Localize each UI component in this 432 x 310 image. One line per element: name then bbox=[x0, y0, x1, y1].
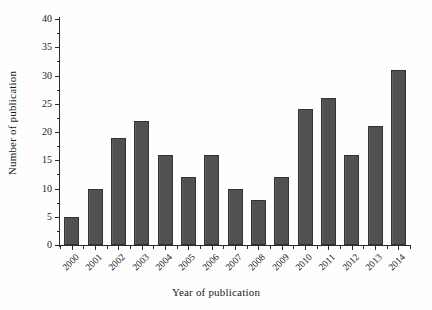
bar bbox=[111, 138, 126, 245]
y-axis-title: Number of publication bbox=[2, 0, 22, 246]
y-axis-tick-label: 10 bbox=[30, 184, 52, 194]
bar bbox=[344, 155, 359, 245]
bar bbox=[251, 200, 266, 245]
y-axis-tick-label: 30 bbox=[30, 71, 52, 81]
x-axis-tick-label: 2010 bbox=[291, 252, 314, 275]
x-axis-tick bbox=[375, 246, 376, 250]
y-axis-tick-label: 20 bbox=[30, 127, 52, 137]
x-axis-minor-tick bbox=[363, 246, 364, 249]
y-axis-tick-label: 5 bbox=[30, 212, 52, 222]
y-axis-minor-tick bbox=[57, 90, 60, 91]
y-axis-tick-label: 15 bbox=[30, 155, 52, 165]
y-axis-tick bbox=[55, 47, 60, 48]
x-axis-tick bbox=[118, 246, 119, 250]
x-axis-tick bbox=[398, 246, 399, 250]
y-axis-minor-tick bbox=[57, 118, 60, 119]
x-axis-minor-tick bbox=[83, 246, 84, 249]
x-axis-minor-tick bbox=[60, 246, 61, 249]
x-axis-tick-label: 2001 bbox=[81, 252, 104, 275]
x-axis-tick-label: 2013 bbox=[361, 252, 384, 275]
bar bbox=[181, 177, 196, 245]
x-axis-tick-label: 2014 bbox=[385, 252, 408, 275]
plot-area bbox=[60, 19, 410, 245]
x-axis-tick bbox=[305, 246, 306, 250]
x-axis-tick-label: 2008 bbox=[245, 252, 268, 275]
x-axis-tick-label: 2003 bbox=[128, 252, 151, 275]
x-axis-minor-tick bbox=[270, 246, 271, 249]
x-axis-minor-tick bbox=[107, 246, 108, 249]
x-axis-tick bbox=[212, 246, 213, 250]
bar bbox=[368, 126, 383, 245]
x-axis-title: Year of publication bbox=[0, 286, 432, 298]
x-axis-minor-tick bbox=[247, 246, 248, 249]
x-axis-minor-tick bbox=[340, 246, 341, 249]
bar bbox=[204, 155, 219, 245]
x-axis-minor-tick bbox=[293, 246, 294, 249]
bar-chart-figure: Number of publication Year of publicatio… bbox=[0, 0, 432, 310]
x-axis-tick bbox=[142, 246, 143, 250]
bar bbox=[228, 189, 243, 246]
y-axis-minor-tick bbox=[57, 33, 60, 34]
bar bbox=[274, 177, 289, 245]
x-axis-tick bbox=[328, 246, 329, 250]
x-axis-tick bbox=[188, 246, 189, 250]
x-axis-tick bbox=[165, 246, 166, 250]
x-axis-minor-tick bbox=[223, 246, 224, 249]
y-axis-tick bbox=[55, 19, 60, 20]
x-axis-tick-label: 2004 bbox=[151, 252, 174, 275]
x-axis-minor-tick bbox=[200, 246, 201, 249]
x-axis-tick bbox=[235, 246, 236, 250]
y-axis-tick-label: 25 bbox=[30, 99, 52, 109]
y-axis-tick bbox=[55, 132, 60, 133]
bar bbox=[391, 70, 406, 245]
x-axis-tick bbox=[95, 246, 96, 250]
y-axis-tick-label: 0 bbox=[30, 240, 52, 250]
x-axis-minor-tick bbox=[177, 246, 178, 249]
bar bbox=[88, 189, 103, 246]
bar bbox=[298, 109, 313, 245]
y-axis-minor-tick bbox=[57, 61, 60, 62]
y-axis-minor-tick bbox=[57, 146, 60, 147]
y-axis-tick-label: 40 bbox=[30, 14, 52, 24]
y-axis-tick bbox=[55, 217, 60, 218]
x-axis-tick-label: 2002 bbox=[105, 252, 128, 275]
y-axis-minor-tick bbox=[57, 231, 60, 232]
x-axis-tick-label: 2012 bbox=[338, 252, 361, 275]
x-axis-tick-label: 2005 bbox=[175, 252, 198, 275]
x-axis-tick bbox=[352, 246, 353, 250]
y-axis-tick bbox=[55, 76, 60, 77]
x-axis-tick-label: 2007 bbox=[221, 252, 244, 275]
y-axis-tick bbox=[55, 160, 60, 161]
x-axis-tick bbox=[72, 246, 73, 250]
x-axis-minor-tick bbox=[153, 246, 154, 249]
x-axis-tick-label: 2011 bbox=[315, 252, 338, 275]
bar bbox=[158, 155, 173, 245]
x-axis-tick-label: 2009 bbox=[268, 252, 291, 275]
y-axis-tick-label: 35 bbox=[30, 42, 52, 52]
bar bbox=[64, 217, 79, 245]
x-axis-tick bbox=[282, 246, 283, 250]
x-axis-tick-label: 2006 bbox=[198, 252, 221, 275]
x-axis-tick-label: 2000 bbox=[58, 252, 81, 275]
x-axis-minor-tick bbox=[387, 246, 388, 249]
y-axis-minor-tick bbox=[57, 203, 60, 204]
x-axis-minor-tick bbox=[317, 246, 318, 249]
y-axis-minor-tick bbox=[57, 174, 60, 175]
x-axis-minor-tick bbox=[410, 246, 411, 249]
y-axis-tick bbox=[55, 104, 60, 105]
bar bbox=[321, 98, 336, 245]
x-axis-tick bbox=[258, 246, 259, 250]
bar bbox=[134, 121, 149, 245]
x-axis-minor-tick bbox=[130, 246, 131, 249]
y-axis-tick bbox=[55, 189, 60, 190]
